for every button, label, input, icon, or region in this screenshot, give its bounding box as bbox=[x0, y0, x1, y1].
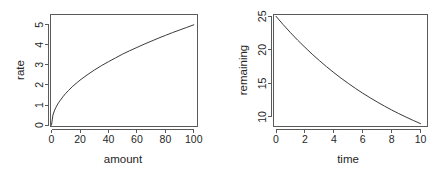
x-tick-label-60: 60 bbox=[131, 133, 143, 145]
rate-vs-amount-svg: 0 1 2 3 4 5 rate 0 20 40 60 80 100 amoun… bbox=[0, 0, 223, 176]
y-tick-label-3: 3 bbox=[33, 62, 45, 68]
data-curve-rate bbox=[52, 25, 194, 125]
y-axis-title: remaining bbox=[237, 45, 249, 96]
x-tick-label-8: 8 bbox=[389, 133, 395, 145]
plot-frame bbox=[274, 15, 428, 127]
x-tick-label-0: 0 bbox=[49, 133, 55, 145]
data-curve-remaining bbox=[276, 16, 421, 123]
chart-panel-rate-vs-amount: 0 1 2 3 4 5 rate 0 20 40 60 80 100 amoun… bbox=[0, 0, 223, 176]
x-tick-label-100: 100 bbox=[185, 133, 203, 145]
x-axis-title: time bbox=[337, 153, 359, 165]
y-tick-label-10: 10 bbox=[256, 111, 268, 123]
x-tick-label-40: 40 bbox=[103, 133, 115, 145]
x-axis-title: amount bbox=[104, 153, 143, 165]
y-tick-label-25: 25 bbox=[256, 10, 268, 22]
x-tick-label-2: 2 bbox=[302, 133, 308, 145]
remaining-vs-time-svg: 10 15 20 25 remaining 0 2 4 6 8 10 time bbox=[223, 0, 446, 176]
y-tick-label-4: 4 bbox=[33, 42, 45, 48]
y-tick-label-0: 0 bbox=[33, 122, 45, 128]
x-tick-label-80: 80 bbox=[160, 133, 172, 145]
y-tick-label-20: 20 bbox=[256, 44, 268, 56]
y-tick-label-5: 5 bbox=[33, 22, 45, 28]
chart-panel-remaining-vs-time: 10 15 20 25 remaining 0 2 4 6 8 10 time bbox=[223, 0, 446, 176]
figure-container: 0 1 2 3 4 5 rate 0 20 40 60 80 100 amoun… bbox=[0, 0, 446, 176]
x-tick-label-20: 20 bbox=[74, 133, 86, 145]
x-tick-label-0: 0 bbox=[273, 133, 279, 145]
y-tick-label-2: 2 bbox=[33, 82, 45, 88]
y-axis-title: rate bbox=[14, 60, 26, 80]
x-tick-label-10: 10 bbox=[415, 133, 427, 145]
x-tick-label-4: 4 bbox=[331, 133, 337, 145]
x-tick-label-6: 6 bbox=[360, 133, 366, 145]
y-tick-label-15: 15 bbox=[256, 77, 268, 89]
y-tick-label-1: 1 bbox=[33, 102, 45, 108]
